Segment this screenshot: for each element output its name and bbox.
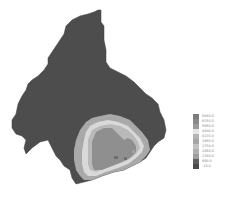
core-speck: [132, 150, 135, 153]
legend-label: -10.0: [202, 164, 211, 169]
core-speck: [124, 157, 127, 160]
core-speck: [114, 156, 118, 159]
map-legend: 6840.0 6250.0 5660.0 4800.0 4130.0 3460.…: [193, 114, 227, 169]
legend-item: -10.0: [193, 164, 227, 169]
